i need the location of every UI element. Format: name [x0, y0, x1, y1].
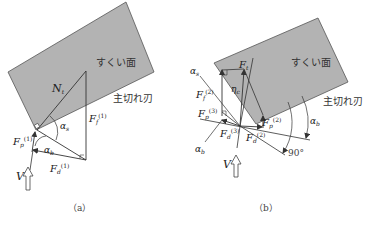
label-fd2-b: Fd(2) — [245, 131, 265, 144]
velocity-arrow-icon-a — [23, 167, 33, 190]
label-fd3-b: Fd(3) — [219, 127, 239, 140]
label-fp2-b: Fp(2) — [261, 116, 281, 130]
label-90-b: 90° — [288, 148, 304, 158]
force-line-fd2-b — [240, 126, 262, 127]
rake-face-label-a: すくい面 — [96, 57, 136, 68]
velocity-arrow-icon-b — [231, 155, 241, 177]
diagram-canvas: Nt Ff(1) Fp(1) αs αb Fd(1) V すくい面 主切れ刃 （… — [0, 0, 369, 225]
velocity-line-a — [30, 150, 33, 170]
label-v-b: V — [223, 158, 232, 171]
cutting-edge-label-a: 主切れ刃 — [113, 93, 153, 104]
force-line-fp-a — [32, 132, 35, 152]
label-alpha-b-a: αb — [44, 145, 54, 156]
rake-face-label-b: すくい面 — [291, 57, 331, 68]
caption-a: （a） — [68, 203, 91, 213]
label-ff-a: Ff(1) — [88, 112, 107, 126]
label-fp-a: Fp(1) — [12, 135, 32, 149]
label-v-a: V — [16, 170, 25, 183]
cutting-edge-label-b: 主切れ刃 — [323, 96, 363, 107]
label-alpha-s-a: αs — [60, 121, 69, 132]
label-ff2-b: Ff(2) — [195, 88, 214, 102]
panel-b: Ft ηc αs Ff(2) Fp(3) Fd(3) Fp(2) Fd(2) α… — [190, 18, 363, 213]
label-alpha-s-b: αs — [190, 66, 199, 77]
label-fd-a: Fd(1) — [49, 162, 69, 175]
caption-b: （b） — [254, 203, 278, 213]
panel-a: Nt Ff(1) Fp(1) αs αb Fd(1) V すくい面 主切れ刃 （… — [8, 2, 154, 213]
label-alpha-b-left: αb — [195, 144, 205, 155]
rake-face-b — [214, 18, 348, 124]
label-alpha-b-right: αb — [310, 116, 320, 127]
label-fp3-b: Fp(3) — [197, 107, 217, 121]
